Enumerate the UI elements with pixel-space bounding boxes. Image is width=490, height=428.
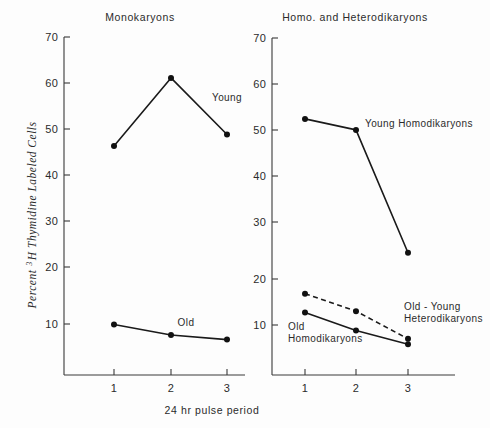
y-tick-label: 20 <box>45 261 58 273</box>
data-point <box>353 127 359 133</box>
x-tick-label: 2 <box>353 382 359 394</box>
series-label-old-young-heterodikaryons-line2: Heterodikaryons <box>404 313 483 324</box>
data-point <box>224 132 230 138</box>
y-tick-label: 60 <box>45 77 58 89</box>
x-tick-label: 1 <box>302 382 308 394</box>
x-tick-label: 1 <box>111 382 117 394</box>
data-point <box>405 341 411 347</box>
data-point <box>405 250 411 256</box>
y-axis-label-prefix: Percent <box>26 269 38 309</box>
scientific-figure: Monokaryons 70 60 50 40 30 20 10 <box>0 0 490 428</box>
x-axis-caption: 24 hr pulse period <box>165 404 260 416</box>
y-tick-label: 40 <box>45 169 58 181</box>
right-panel-title: Homo. and Heterodikaryons <box>282 11 428 23</box>
y-tick-label: 10 <box>253 319 266 331</box>
y-tick-label: 50 <box>45 123 58 135</box>
y-tick-label: 40 <box>253 170 266 182</box>
series-label-old-homodikaryons-line2: Homodikaryons <box>288 333 363 344</box>
series-label-old-homodikaryons-line1: Old <box>288 321 305 332</box>
series-line-young <box>114 78 227 146</box>
x-tick-label: 3 <box>224 382 230 394</box>
y-axis-label-group: Percent3H Thymidine Labeled Cells <box>25 121 39 309</box>
y-tick-label: 30 <box>45 215 58 227</box>
y-tick-label: 30 <box>253 216 266 228</box>
y-tick-label: 10 <box>45 318 58 330</box>
data-point <box>111 322 117 328</box>
data-point <box>168 332 174 338</box>
left-panel-title: Monokaryons <box>105 11 175 23</box>
data-point <box>405 336 411 342</box>
x-tick-label: 3 <box>405 382 411 394</box>
series-label-old: Old <box>178 317 195 328</box>
series-label-young: Young <box>212 92 242 103</box>
y-tick-label: 70 <box>45 31 58 43</box>
data-point <box>111 143 117 149</box>
data-point <box>302 310 308 316</box>
right-panel: Homo. and Heterodikaryons 70 60 50 40 30… <box>253 11 482 394</box>
data-point <box>302 116 308 122</box>
y-tick-label: 20 <box>253 273 266 285</box>
left-panel: Monokaryons 70 60 50 40 30 20 10 <box>45 11 245 394</box>
y-tick-label: 70 <box>253 32 266 44</box>
right-panel-x-ticks <box>305 369 408 375</box>
data-point <box>224 337 230 343</box>
data-point <box>302 291 308 297</box>
y-tick-label: 60 <box>253 78 266 90</box>
series-label-old-young-heterodikaryons-line1: Old - Young <box>404 301 461 312</box>
series-line-young-homodikaryons <box>305 119 408 253</box>
y-tick-label: 50 <box>253 124 266 136</box>
y-axis-label-main: H Thymidine Labeled Cells <box>26 121 39 261</box>
left-panel-x-ticks <box>114 369 227 375</box>
left-panel-y-ticks <box>64 37 70 324</box>
y-axis-label: Percent3H Thymidine Labeled Cells <box>25 121 39 309</box>
right-panel-y-ticks <box>272 38 278 325</box>
data-point <box>168 75 174 81</box>
series-label-young-homodikaryons: Young Homodikaryons <box>365 118 473 129</box>
x-tick-label: 2 <box>168 382 174 394</box>
data-point <box>353 308 359 314</box>
figure-root: Monokaryons 70 60 50 40 30 20 10 <box>0 0 490 428</box>
y-axis-label-superscript: 3 <box>25 261 34 267</box>
